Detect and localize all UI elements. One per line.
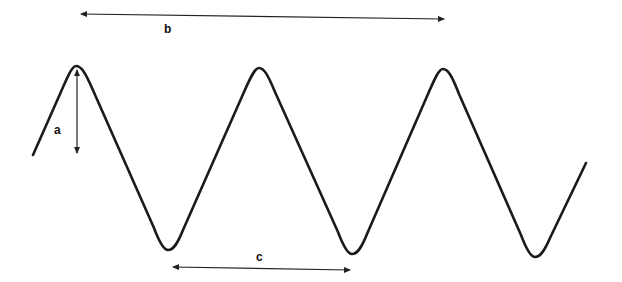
wave-curve bbox=[33, 66, 586, 257]
wave-diagram bbox=[0, 0, 622, 282]
dimension-b-label: b bbox=[164, 23, 171, 35]
dimension-c-arrow bbox=[173, 267, 350, 270]
dimension-c-label: c bbox=[256, 251, 263, 263]
dimension-a-label: a bbox=[54, 124, 61, 136]
dimension-b-arrow bbox=[81, 14, 444, 19]
